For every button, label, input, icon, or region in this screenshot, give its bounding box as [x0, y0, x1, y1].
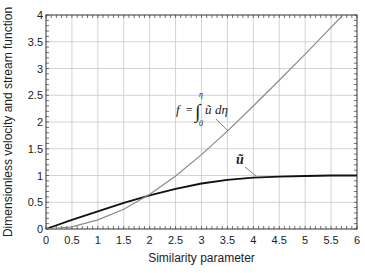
y-tick-label: 2.5 [28, 89, 43, 101]
x-tick-label: 0 [43, 234, 49, 246]
x-tick-label: 4.5 [272, 234, 287, 246]
annot-integrand: ũ [205, 102, 212, 117]
annot-u-symbol: ũ [236, 152, 244, 167]
y-tick-label: 0 [37, 223, 43, 235]
y-tick-label: 3 [37, 63, 43, 75]
x-tick-label: 2.5 [168, 234, 183, 246]
y-tick-label: 0.5 [28, 196, 43, 208]
y-tick-label: 4 [37, 9, 43, 21]
annot-d-eta: dη [215, 102, 228, 117]
x-tick-label: 1.5 [116, 234, 131, 246]
annot-u-leader [245, 167, 256, 176]
y-tick-label: 1 [37, 170, 43, 182]
x-tick-label: 3 [198, 234, 204, 246]
y-tick-label: 1.5 [28, 143, 43, 155]
annot-upper-limit: η [199, 90, 203, 99]
annot-f-symbol: f [176, 102, 182, 117]
annot-f-leader [216, 119, 228, 131]
y-axis-title: Dimensionless velocity and stream functi… [1, 7, 15, 237]
x-tick-label: 0.5 [64, 234, 79, 246]
annot-lower-limit: 0 [199, 119, 203, 128]
annot-equals: = [185, 103, 193, 117]
annotation-stream-function: f = ∫ η 0 ũ dη [176, 90, 228, 131]
x-tick-label: 6 [354, 234, 360, 246]
x-tick-label: 4 [250, 234, 256, 246]
y-tick-label: 2 [37, 116, 43, 128]
y-tick-label: 3.5 [28, 36, 43, 48]
x-tick-label: 1 [95, 234, 101, 246]
x-tick-label: 5.5 [323, 234, 338, 246]
x-tick-labels: 00.511.522.533.544.555.56 [43, 234, 360, 246]
x-tick-label: 5 [302, 234, 308, 246]
x-axis-title: Similarity parameter [148, 251, 255, 265]
x-tick-label: 3.5 [220, 234, 235, 246]
y-tick-labels: 00.511.522.533.54 [28, 9, 43, 235]
chart: 00.511.522.533.544.555.56 00.511.522.533… [0, 0, 365, 273]
x-tick-label: 2 [147, 234, 153, 246]
